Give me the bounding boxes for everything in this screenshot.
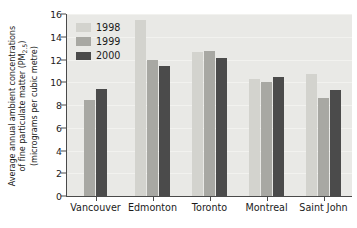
legend-swatch-icon [76,23,91,32]
y-axis-title-line-2: of fine particulate matter (PM2.5) [17,26,28,186]
x-axis-tick-label: Edmonton [128,202,177,213]
y-axis-title-line-3: (micrograms per cubic metre) [29,26,39,186]
x-axis-tick-mark [267,197,268,201]
bar [159,66,171,196]
bar [96,89,108,196]
legend-item: 1998 [76,22,120,33]
bar [330,90,342,196]
legend-swatch-icon [76,52,91,61]
bar [249,79,261,196]
bar [273,77,285,196]
y-axis-tick-labels: 0246810121416 [44,14,62,196]
x-axis-tick-mark [153,197,154,201]
legend-label: 2000 [96,51,120,61]
legend-label: 1999 [96,37,120,47]
bar [204,51,216,196]
gridline [67,14,352,15]
legend-item: 1999 [76,36,120,47]
y-axis-tick-label: 10 [44,77,62,88]
y-axis-title-subscript: 2.5 [21,44,28,54]
bar [216,58,228,196]
y-axis-title: Average annual ambient concentrations of… [0,0,46,212]
x-axis-tick-mark [96,197,97,201]
y-axis-title-line-1: Average annual ambient concentrations [7,26,17,186]
bar [84,100,96,196]
bar [306,74,318,196]
bar [261,82,273,196]
bar [318,98,330,196]
y-axis-tick-label: 4 [44,145,62,156]
legend: 199819992000 [76,22,120,61]
y-axis-tick-label: 0 [44,191,62,202]
x-axis-tick-label: Vancouver [70,202,121,213]
legend-swatch-icon [76,37,91,46]
bar [192,52,204,196]
x-axis-tick-label: Toronto [192,202,227,213]
y-axis-tick-label: 2 [44,168,62,179]
legend-label: 1998 [96,23,120,33]
y-axis-tick-label: 6 [44,122,62,133]
y-axis-tick-label: 14 [44,31,62,42]
x-axis-tick-label: Montreal [245,202,287,213]
legend-item: 2000 [76,50,120,61]
y-axis-title-line-2-text: of fine particulate matter (PM [17,53,27,171]
y-axis-line [66,14,67,196]
y-axis-tick-label: 8 [44,100,62,111]
x-axis-tick-mark [210,197,211,201]
y-axis-tick-label: 12 [44,54,62,65]
bar [135,20,147,196]
y-axis-tick-label: 16 [44,9,62,20]
x-axis-tick-mark [324,197,325,201]
x-axis-tick-label: Saint John [299,202,347,213]
bar-chart-figure: Average annual ambient concentrations of… [0,0,357,228]
bar [147,60,159,197]
